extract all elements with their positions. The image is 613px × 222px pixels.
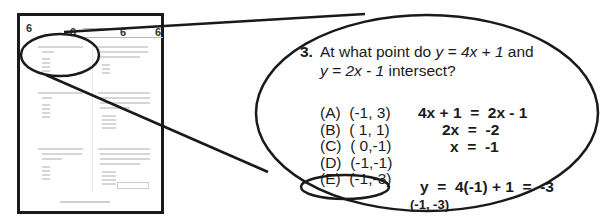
connector-line-bottom (46, 75, 268, 172)
question-prefix: At what point do (320, 43, 435, 60)
choice-c: (C) ( 0,-1) (320, 138, 392, 155)
question-and: and (504, 43, 534, 60)
equation-2: y = 2x - 1 (320, 62, 384, 79)
choice-value: ( 1, 1) (349, 121, 389, 138)
choice-letter: (C) (320, 137, 342, 154)
choice-b: (B) ( 1, 1) (320, 122, 392, 139)
question-number: 3. (300, 42, 320, 61)
choice-value: (-1,-3) (349, 170, 391, 187)
choice-value: (-1,-1) (350, 154, 392, 171)
work-step-2: 2x = -2 (442, 121, 499, 139)
final-answer: (-1, -3) (410, 197, 449, 212)
work-step-1: 4x + 1 = 2x - 1 (418, 104, 527, 122)
choice-a: (A) (-1, 3) (320, 105, 392, 122)
choice-letter: (D) (320, 154, 342, 171)
choice-value: (-1, 3) (349, 104, 390, 121)
question-suffix: intersect? (384, 62, 456, 79)
choice-letter: (A) (320, 104, 341, 121)
question-text: 3.At what point do y = 4x + 1 and y = 2x… (300, 42, 590, 80)
work-step-3: x = -1 (450, 138, 499, 156)
choice-d: (D) (-1,-1) (320, 155, 392, 172)
small-highlight-ellipse (21, 34, 99, 76)
work-step-4: y = 4(-1) + 1 = -3 (420, 178, 554, 196)
choice-letter: (B) (320, 121, 341, 138)
choice-e-selected: (E) (-1,-3) (320, 171, 392, 188)
choice-letter: (E) (320, 170, 341, 187)
equation-1: y = 4x + 1 (435, 43, 503, 60)
choice-value: ( 0,-1) (350, 137, 391, 154)
connector-line-top (64, 14, 365, 32)
answer-choices: (A) (-1, 3) (B) ( 1, 1) (C) ( 0,-1) (D) … (320, 105, 392, 188)
